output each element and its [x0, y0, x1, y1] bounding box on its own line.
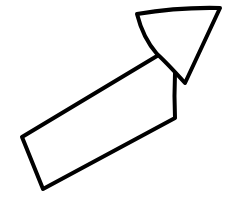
arrow-head	[137, 8, 220, 83]
arrow-icon	[0, 0, 234, 207]
arrow-shaft	[22, 56, 175, 189]
diagram-canvas: Arrow pointing up-right	[0, 0, 234, 207]
